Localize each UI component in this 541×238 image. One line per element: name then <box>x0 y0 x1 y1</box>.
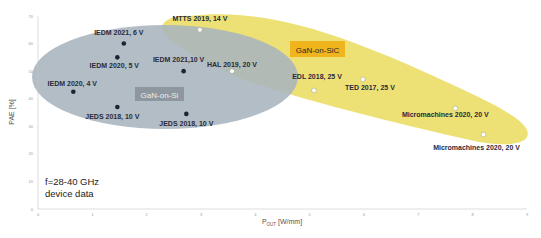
device-data-note: device data <box>45 188 94 199</box>
filled-marker-icon <box>184 112 189 117</box>
y-tick-label: 70 <box>29 14 34 19</box>
x-tick-labels: 0123456789 <box>37 212 529 217</box>
point-label: JEDS 2018, 10 V <box>85 113 139 121</box>
point-label: HAL 2019, 20 V <box>207 61 257 69</box>
y-tick-label: 10 <box>29 179 34 184</box>
hollow-marker-icon <box>361 77 366 82</box>
y-tick-labels: 010203040506070 <box>29 14 34 212</box>
hollow-marker-icon <box>481 132 486 137</box>
point-label: IEDM 2020, 5 V <box>90 62 140 70</box>
x-tick-label: 4 <box>254 212 257 217</box>
x-tick-label: 3 <box>200 212 203 217</box>
hollow-marker-icon <box>453 106 458 111</box>
hollow-marker-icon <box>230 69 235 74</box>
point-label: MTTS 2019, 14 V <box>172 15 227 23</box>
point-label: IEDM 2020, 4 V <box>48 80 98 88</box>
point-label: EDL 2018, 25 V <box>292 73 342 81</box>
x-tick-label: 9 <box>526 212 529 217</box>
point-label: IEDM 2021,10 V <box>153 56 205 64</box>
point-label: TED 2017, 25 V <box>345 84 395 92</box>
hollow-marker-icon <box>312 88 317 93</box>
x-tick-label: 8 <box>472 212 475 217</box>
y-axis-label: PAE [%] <box>8 99 16 125</box>
filled-marker-icon <box>71 90 76 95</box>
x-axis-label: POUT [W/mm] <box>262 218 302 227</box>
frequency-note: f=28-40 GHz <box>45 176 99 187</box>
hollow-marker-icon <box>198 27 203 32</box>
gan-on-si-region <box>32 25 298 129</box>
point-label: JEDS 2018, 10 V <box>159 120 213 128</box>
x-tick-label: 5 <box>309 212 312 217</box>
x-tick-label: 7 <box>417 212 420 217</box>
point-label: Micromachines 2020, 20 V <box>402 111 489 119</box>
filled-marker-icon <box>122 41 127 46</box>
y-tick-label: 40 <box>29 96 34 101</box>
svg-text:GaN-on-SiC: GaN-on-SiC <box>296 46 340 55</box>
y-tick-label: 30 <box>29 124 34 129</box>
svg-text:GaN-on-Si: GaN-on-Si <box>141 91 179 100</box>
x-tick-label: 2 <box>146 212 149 217</box>
pae-vs-pout-scatter-chart: 0123456789 010203040506070 PAE [%] POUT … <box>0 0 541 238</box>
gan-on-si-label: GaN-on-Si <box>135 87 184 101</box>
x-tick-label: 1 <box>91 212 94 217</box>
y-tick-label: 0 <box>31 207 34 212</box>
filled-marker-icon <box>115 105 120 110</box>
filled-marker-icon <box>181 69 186 74</box>
y-tick-label: 60 <box>29 41 34 46</box>
y-tick-label: 50 <box>29 69 34 74</box>
x-tick-label: 6 <box>363 212 366 217</box>
point-label: Micromachines 2020, 20 V <box>433 144 520 152</box>
x-tick-label: 0 <box>37 212 40 217</box>
y-tick-label: 20 <box>29 151 34 156</box>
filled-marker-icon <box>115 55 120 60</box>
point-label: IEDM 2021, 6 V <box>94 29 144 37</box>
gan-on-sic-label: GaN-on-SiC <box>290 41 345 57</box>
